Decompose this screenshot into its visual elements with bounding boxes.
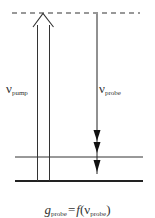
probe-frequency-label: νprobe: [99, 80, 121, 97]
formula-nu-subscript: probe: [90, 210, 106, 218]
energy-level-diagram: [0, 0, 155, 218]
pump-arrow-icon: [33, 14, 54, 182]
formula-close-paren: ): [106, 202, 110, 217]
formula-equals: =: [68, 202, 75, 217]
formula-g-subscript: probe: [51, 210, 67, 218]
gain-formula: gprobe=f(νprobe): [0, 201, 155, 218]
pump-subscript: pump: [12, 89, 28, 97]
probe-subscript: probe: [105, 89, 121, 97]
pump-frequency-label: νpump: [6, 80, 28, 97]
